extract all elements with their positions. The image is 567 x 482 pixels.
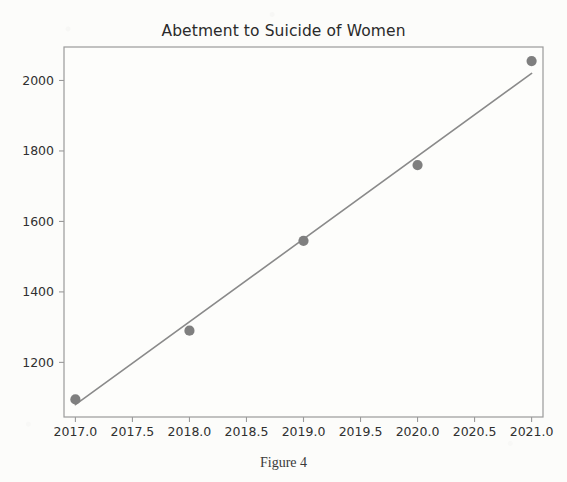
x-tick-label: 2020.5 (453, 424, 497, 439)
y-tick-label: 1200 (22, 355, 54, 370)
figure-caption: Figure 4 (0, 455, 567, 471)
data-point (70, 394, 80, 404)
x-tick-label: 2018.0 (168, 424, 212, 439)
y-axis-ticks: 12001400160018002000 (22, 73, 64, 370)
data-point (412, 160, 422, 170)
data-point (526, 56, 536, 66)
x-tick-label: 2017.0 (54, 424, 98, 439)
y-tick-label: 2000 (22, 73, 54, 88)
data-point (298, 236, 308, 246)
y-tick-label: 1600 (22, 214, 54, 229)
y-tick-label: 1400 (22, 284, 54, 299)
x-tick-label: 2019.0 (282, 424, 326, 439)
y-tick-label: 1800 (22, 143, 54, 158)
x-axis-ticks: 2017.02017.52018.02018.52019.02019.52020… (54, 417, 554, 439)
x-tick-label: 2017.5 (111, 424, 155, 439)
figure-container: Abetment to Suicide of Women 2017.02017.… (0, 0, 567, 482)
x-tick-label: 2021.0 (510, 424, 554, 439)
x-tick-label: 2020.0 (396, 424, 440, 439)
x-tick-label: 2018.5 (225, 424, 269, 439)
scatter-plot: 2017.02017.52018.02018.52019.02019.52020… (0, 0, 567, 482)
x-tick-label: 2019.5 (339, 424, 383, 439)
data-point (184, 326, 194, 336)
